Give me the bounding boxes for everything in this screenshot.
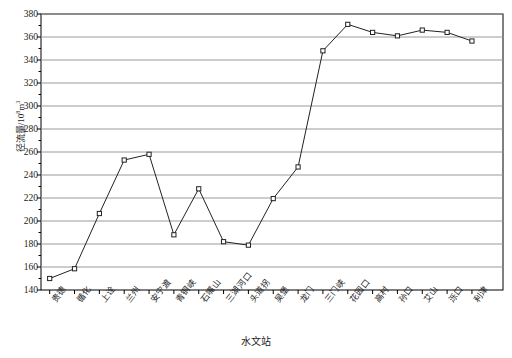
x-tick-label: 泺口 (445, 283, 466, 305)
x-axis-title: 水文站 (0, 333, 512, 348)
x-tick-label: 花园口 (346, 276, 372, 305)
x-tick-label: 孙口 (395, 283, 416, 305)
x-tick-label: 利津 (470, 283, 491, 305)
x-tick-label: 三门峡 (321, 276, 347, 305)
x-axis-ticks: 贵德循化上诠兰州安宁渡青铜峡石嘴山三湖河口头道拐吴堡龙门三门峡花园口高村孙口艾山… (0, 0, 512, 358)
x-tick-label: 吴堡 (271, 283, 292, 305)
x-tick-label: 高村 (371, 283, 392, 305)
x-tick-label: 艾山 (420, 283, 441, 305)
x-tick-label: 上诠 (97, 283, 118, 305)
x-tick-label: 青铜峡 (172, 276, 198, 305)
x-tick-label: 循化 (73, 283, 94, 305)
x-tick-label: 贵德 (48, 283, 69, 305)
x-tick-label: 安宁渡 (147, 276, 173, 305)
x-tick-label: 龙门 (296, 283, 317, 305)
x-tick-label: 兰州 (122, 283, 143, 305)
runoff-line-chart: 径流量/108m3 140160180200220240260280300320… (0, 0, 512, 358)
x-tick-label: 石嘴山 (197, 276, 223, 305)
